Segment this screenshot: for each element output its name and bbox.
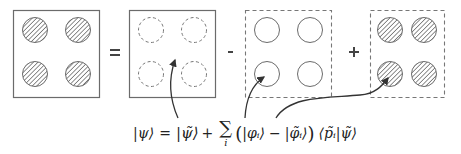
formula-lhs: |ψ⟩ [133,125,154,141]
dashed-circle [139,18,164,43]
dashed-circle [182,62,207,87]
formula-phi-tilde: |φ̃ᵢ⟩ [285,125,308,141]
panel-ps-partial [371,11,445,98]
solid-circle [255,62,280,87]
hatched-circle [412,62,437,87]
formula-minus: − [269,125,281,141]
hatched-circle [378,18,403,43]
dashed-circle [139,62,164,87]
hatched-circle [66,62,91,87]
paw-formula: |ψ⟩ = |ψ̃⟩ + ∑ i ( |φᵢ⟩ − |φ̃ᵢ⟩ ) ⟨p̃ᵢ|ψ… [133,118,373,148]
formula-plus: + [202,125,214,141]
panel-all-electron [14,11,100,98]
dashed-box [246,11,332,98]
formula-sum-index: i [224,138,227,148]
hatched-circle [412,18,437,43]
panel-ae-partial [246,11,332,98]
formula-paren-close: ) [308,123,315,144]
solid-circle [255,18,280,43]
solid-circle [298,18,323,43]
minus-sign [228,51,233,53]
hatched-circle [66,18,91,43]
dashed-circle [182,18,207,43]
equals-sign [110,49,120,56]
formula-phi: |φᵢ⟩ [242,125,265,141]
solid-box [130,11,216,98]
solid-circle [298,62,323,87]
panel-pseudo [130,11,216,98]
formula-projector: ⟨p̃ᵢ|ψ̃⟩ [319,125,357,141]
plus-sign [349,47,359,57]
formula-sum: ∑ [219,119,232,137]
formula-term1: |ψ̃⟩ [176,124,199,142]
hatched-circle [23,18,48,43]
hatched-circle [23,62,48,87]
arrow-pseudo [171,60,178,118]
hatched-circle [378,62,403,87]
formula-paren-open: ( [235,123,242,144]
formula-equals: = [159,125,171,141]
arrow-ae-partial [245,77,264,118]
